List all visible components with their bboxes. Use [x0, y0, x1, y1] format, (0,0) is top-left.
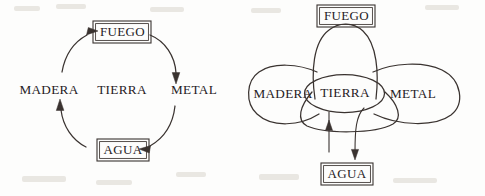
right-diagram-lobes: FUEGO AGUA MADERA TIERRA METAL [243, 0, 485, 196]
arc-agua-to-madera [56, 99, 86, 147]
arrow-up-to-tierra [325, 112, 332, 152]
arc-metal-to-agua [139, 106, 175, 153]
node-label-tierra: TIERRA [320, 85, 370, 100]
figure-canvas: FUEGO AGUA MADERA TIERRA METAL [0, 0, 485, 196]
arc-fuego-to-metal [150, 35, 180, 84]
node-label-agua: AGUA [104, 142, 143, 157]
node-label-madera: MADERA [19, 82, 78, 97]
node-label-fuego: FUEGO [324, 8, 369, 23]
node-label-fuego: FUEGO [100, 24, 145, 39]
node-label-metal: METAL [171, 82, 217, 97]
node-label-metal: METAL [390, 86, 436, 101]
node-label-tierra: TIERRA [97, 82, 147, 97]
node-agua[interactable]: AGUA [97, 139, 149, 161]
arrow-down-to-agua [351, 108, 364, 160]
left-diagram-cycle: FUEGO AGUA MADERA TIERRA METAL [0, 0, 243, 196]
node-fuego[interactable]: FUEGO [93, 21, 151, 43]
node-label-madera: MADERA [253, 86, 312, 101]
node-agua[interactable]: AGUA [321, 163, 373, 185]
node-label-agua: AGUA [328, 166, 367, 181]
